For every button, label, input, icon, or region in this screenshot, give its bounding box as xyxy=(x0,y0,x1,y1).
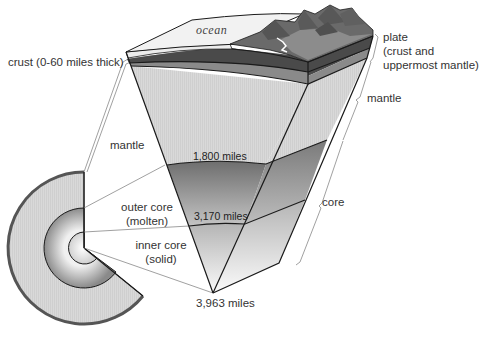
depth-1800-label: 1,800 miles xyxy=(193,149,247,163)
plate-label-line1: plate xyxy=(383,30,479,44)
core-right-label: core xyxy=(322,195,344,209)
mantle-right-label: mantle xyxy=(367,91,402,105)
outer-core-line2: (molten) xyxy=(112,214,182,228)
earth-diagram: ocean crust (0-60 miles thick) plate (cr… xyxy=(0,0,484,339)
outer-core-line1: outer core xyxy=(112,200,182,214)
crust-label: crust (0-60 miles thick) xyxy=(8,55,124,69)
depth-3170-label: 3,170 miles xyxy=(194,209,248,223)
plate-label: plate (crust and uppermost mantle) xyxy=(383,30,479,72)
depth-3963-label: 3,963 miles xyxy=(196,296,255,310)
earth-cutaway-circle xyxy=(8,172,143,324)
ocean-label: ocean xyxy=(196,23,227,37)
mantle-left-label: mantle xyxy=(110,138,145,152)
inner-core-label: inner core (solid) xyxy=(124,238,198,266)
plate-label-line2: (crust and xyxy=(383,44,479,58)
plate-label-line3: uppermost mantle) xyxy=(383,58,479,72)
outer-core-label: outer core (molten) xyxy=(112,200,182,228)
inner-core-line2: (solid) xyxy=(124,252,198,266)
inner-core-line1: inner core xyxy=(124,238,198,252)
